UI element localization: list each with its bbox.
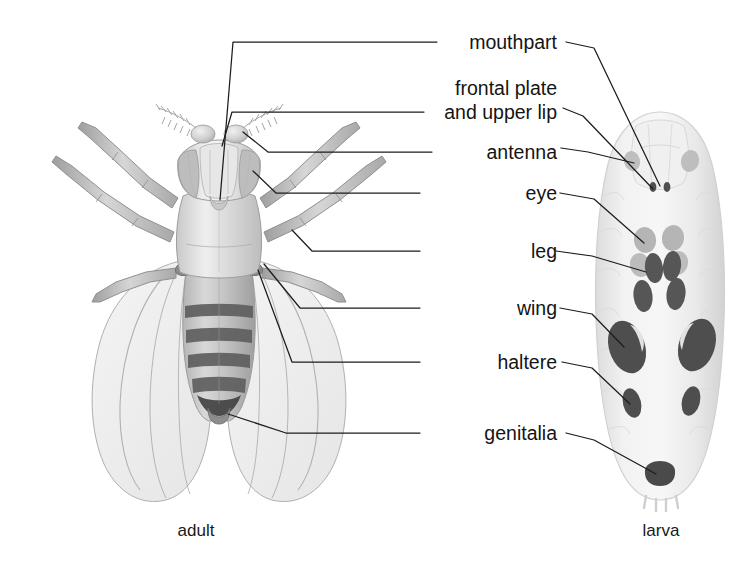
label-wing: wing	[516, 297, 557, 319]
label-texts: mouthpart frontal plate and upper lip an…	[444, 31, 557, 444]
label-haltere: haltere	[497, 351, 557, 373]
label-eye: eye	[526, 182, 557, 204]
label-frontal-plate-line2: and upper lip	[444, 101, 557, 123]
anatomy-figure: mouthpart frontal plate and upper lip an…	[0, 0, 751, 564]
diagram-canvas: mouthpart frontal plate and upper lip an…	[0, 0, 751, 564]
leader-frontal-left	[222, 112, 424, 146]
label-genitalia: genitalia	[484, 422, 557, 444]
leg-mid-right	[264, 156, 386, 242]
leader-leg-left	[292, 230, 420, 251]
label-antenna: antenna	[487, 141, 558, 163]
adult-fly	[52, 104, 386, 502]
leg-mid-left	[52, 156, 174, 242]
label-leg: leg	[531, 240, 557, 262]
caption-adult: adult	[178, 521, 215, 540]
label-frontal-plate-line1: frontal plate	[455, 77, 557, 99]
mouthpart-disc-right	[664, 182, 671, 192]
adult-head	[156, 104, 283, 210]
arista-right	[243, 104, 283, 136]
arista-left	[156, 104, 196, 136]
label-mouthpart: mouthpart	[469, 31, 557, 53]
antenna-left	[191, 125, 215, 143]
genital-disc	[645, 461, 675, 486]
adult-abdomen	[183, 272, 255, 424]
caption-larva: larva	[643, 521, 680, 540]
frontal-plate	[200, 144, 238, 199]
